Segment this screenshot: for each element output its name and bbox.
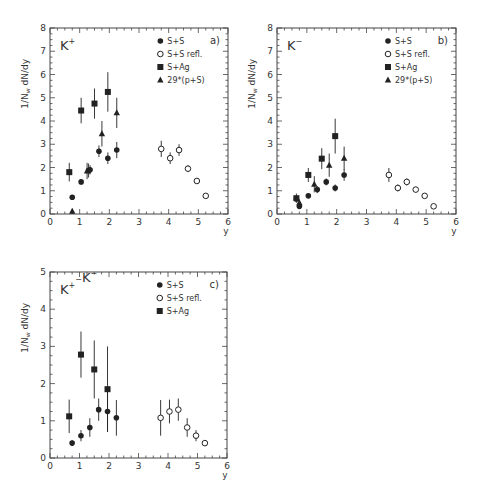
x-axis-title: y (451, 226, 457, 236)
legend-entry: 29*(p+S) (395, 76, 432, 85)
marker-open-circle (158, 146, 164, 152)
marker-filled-circle (105, 155, 111, 161)
y-tick-label: 1 (267, 186, 273, 196)
marker-filled-triangle (385, 77, 391, 83)
chart-canvas: 0123456012345678y1/Nw dN/dyK+a)S+SS+S re… (0, 0, 481, 493)
x-tick-label: 0 (274, 217, 280, 227)
x-tick-label: 3 (136, 217, 142, 227)
marker-filled-triangle (99, 130, 105, 136)
marker-open-circle (167, 409, 173, 415)
x-tick-label: 2 (106, 217, 112, 227)
y-tick-label: 8 (267, 23, 273, 33)
marker-filled-square (105, 89, 111, 95)
legend: S+SS+S refl.S+Ag (157, 281, 202, 316)
marker-filled-circle (314, 187, 320, 193)
y-axis-title: 1/Nw dN/dy (20, 58, 31, 108)
marker-open-circle (184, 425, 190, 431)
series-s-s-refl- (158, 141, 208, 199)
series-s-s (69, 391, 119, 446)
x-axis-title: y (222, 470, 228, 480)
marker-filled-circle (87, 425, 93, 431)
marker-filled-circle (341, 172, 347, 178)
marker-filled-triangle (311, 181, 317, 187)
x-tick-label: 3 (136, 461, 142, 471)
y-tick-label: 1 (40, 186, 46, 196)
panel-tag: c) (210, 279, 219, 290)
x-tick-label: 4 (165, 461, 171, 471)
marker-filled-triangle (326, 162, 332, 168)
marker-filled-triangle (157, 77, 163, 83)
marker-filled-square (78, 108, 84, 114)
y-tick-label: 2 (40, 379, 46, 389)
series-s-s (294, 169, 347, 209)
marker-filled-triangle (69, 208, 75, 214)
marker-filled-circle (69, 194, 75, 200)
marker-open-circle (385, 51, 391, 57)
chart-panel-b: 0123456012345678y1/Nw dN/dyK−b)S+SS+S re… (247, 23, 459, 236)
marker-open-circle (431, 204, 437, 210)
y-tick-label: 1 (40, 416, 46, 426)
marker-open-circle (176, 407, 182, 413)
marker-filled-square (319, 156, 325, 162)
marker-filled-circle (323, 179, 329, 185)
marker-filled-circle (78, 433, 84, 439)
y-tick-label: 0 (267, 209, 273, 219)
marker-open-circle (157, 295, 163, 301)
legend-entry: S+Ag (167, 307, 189, 316)
marker-filled-square (332, 133, 338, 139)
marker-open-circle (158, 415, 164, 421)
chart-panel-c: 0123456012345y1/Nw dN/dyK+−K−c)S+SS+S re… (20, 267, 230, 480)
marker-open-circle (193, 433, 199, 439)
marker-filled-square (92, 101, 98, 107)
marker-filled-square (78, 352, 84, 358)
x-tick-label: 0 (47, 461, 53, 471)
legend: S+SS+S refl.S+Ag29*(p+S) (385, 37, 432, 85)
y-tick-label: 5 (40, 267, 46, 277)
legend-entry: S+S (395, 37, 412, 46)
y-tick-label: 2 (267, 163, 273, 173)
marker-open-circle (386, 172, 392, 178)
y-tick-label: 6 (267, 70, 273, 80)
marker-open-circle (194, 178, 200, 184)
y-tick-label: 4 (40, 116, 46, 126)
x-tick-label: 1 (77, 217, 83, 227)
marker-filled-circle (385, 38, 391, 44)
x-tick-label: 1 (304, 217, 310, 227)
legend-entry: S+S refl. (167, 50, 202, 59)
legend-entry: S+Ag (395, 63, 417, 72)
x-tick-label: 5 (423, 217, 429, 227)
x-tick-label: 4 (166, 217, 172, 227)
y-tick-label: 6 (40, 70, 46, 80)
y-tick-label: 3 (40, 139, 46, 149)
x-tick-label: 5 (195, 217, 201, 227)
marker-filled-square (157, 308, 163, 314)
marker-filled-circle (69, 440, 75, 446)
marker-filled-circle (306, 193, 312, 199)
marker-filled-triangle (341, 155, 347, 161)
marker-open-circle (413, 187, 419, 193)
legend: S+SS+S refl.S+Ag29*(p+S) (157, 37, 204, 85)
marker-filled-circle (96, 148, 102, 154)
x-tick-label: 4 (393, 217, 399, 227)
x-tick-label: 1 (77, 461, 83, 471)
marker-filled-square (293, 195, 299, 201)
marker-filled-square (157, 64, 163, 70)
y-tick-label: 4 (40, 304, 46, 314)
marker-filled-square (91, 366, 97, 372)
y-tick-label: 3 (40, 341, 46, 351)
x-axis-title: y (223, 226, 229, 236)
chart-panel-a: 0123456012345678y1/Nw dN/dyK+a)S+SS+S re… (20, 23, 231, 236)
y-tick-label: 4 (267, 116, 273, 126)
y-tick-label: 0 (40, 453, 46, 463)
panel-title: K+−K− (60, 269, 97, 297)
marker-open-circle (203, 193, 209, 199)
y-tick-label: 0 (40, 209, 46, 219)
panel-title: K+ (60, 37, 75, 53)
y-tick-label: 7 (267, 46, 273, 56)
series-s-s-refl- (386, 168, 436, 209)
legend-entry: 29*(p+S) (167, 76, 204, 85)
marker-open-circle (395, 185, 401, 191)
legend-entry: S+S refl. (167, 294, 202, 303)
x-tick-label: 5 (195, 461, 201, 471)
marker-filled-circle (114, 415, 120, 421)
